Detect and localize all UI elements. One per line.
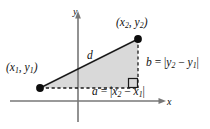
- hypotenuse-label: d: [87, 50, 93, 62]
- point-2-label: (x2, y2): [116, 17, 147, 29]
- vertical-leg-label: b = |y2 − y1|: [146, 57, 199, 69]
- x-axis-label: x: [167, 97, 171, 107]
- point-1-label: (x1, y1): [6, 62, 37, 74]
- point-1-dot: [36, 84, 44, 92]
- y-axis-label: y: [73, 7, 77, 17]
- horizontal-leg-label: a = |x2 − x1|: [92, 86, 145, 98]
- point-2-dot: [134, 35, 142, 43]
